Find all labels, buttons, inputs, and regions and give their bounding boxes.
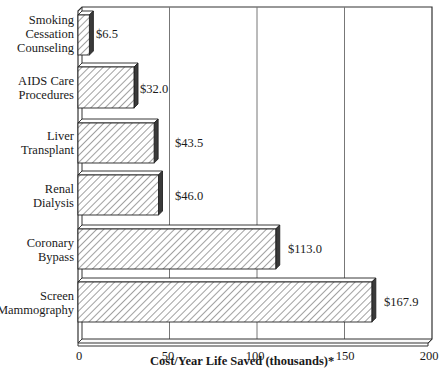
bar [78, 278, 376, 322]
value-label-coronary: $113.0 [288, 242, 322, 256]
bar-chart: Smoking Cessation Counseling AIDS Care P… [0, 0, 440, 372]
x-tick-150: 150 [336, 349, 355, 364]
x-axis-title: Cost/Year Life Saved (thousands)* [150, 354, 334, 369]
category-label-smoking: Smoking Cessation Counseling [17, 13, 74, 55]
category-label-renal: Renal Dialysis [33, 182, 74, 210]
bar [78, 11, 93, 55]
category-label-liver: Liver Transplant [21, 129, 74, 157]
value-label-mammography: $167.9 [384, 295, 418, 309]
x-tick-0: 0 [76, 349, 82, 364]
category-label-mammography: Screen Mammography [0, 289, 74, 317]
bar [78, 171, 163, 215]
bar [78, 63, 138, 108]
x-tick-200: 200 [420, 349, 439, 364]
value-label-aids: $32.0 [140, 82, 168, 96]
value-label-smoking: $6.5 [96, 27, 118, 41]
value-label-renal: $46.0 [175, 189, 203, 203]
bars [78, 11, 376, 322]
category-label-aids: AIDS Care Procedures [18, 74, 74, 102]
value-label-liver: $43.5 [175, 136, 203, 150]
bar [78, 119, 158, 163]
bar [78, 225, 280, 269]
category-label-coronary: Coronary Bypass [27, 236, 74, 264]
